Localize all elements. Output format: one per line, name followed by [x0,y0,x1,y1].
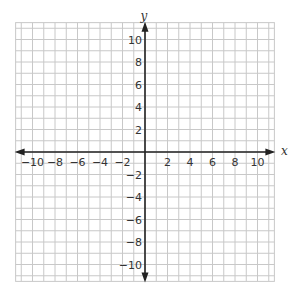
y-tick-label: −2 [126,169,142,182]
y-tick-label: −4 [126,191,142,204]
x-tick-labels: −10−8−6−4−2246810 [21,156,265,169]
x-tick-label: −6 [69,156,85,169]
x-axis-label: x [281,144,288,158]
x-tick-label: 10 [251,156,265,169]
x-tick-label: 2 [164,156,171,169]
y-tick-label: −8 [126,236,142,249]
y-tick-label: −6 [126,214,142,227]
y-tick-label: 4 [135,101,142,114]
x-tick-label: −2 [114,156,130,169]
y-axis-label: y [140,9,148,23]
coordinate-plane: −10−8−6−4−2246810 108642−2−4−6−8−10 x y [0,0,296,292]
x-tick-label: −4 [92,156,108,169]
x-tick-label: −8 [47,156,63,169]
y-tick-label: −10 [119,259,142,272]
x-tick-label: −10 [21,156,44,169]
y-tick-label: 10 [128,34,142,47]
axes [15,22,276,283]
y-tick-label: 8 [135,56,142,69]
y-tick-label: 2 [135,124,142,137]
x-tick-label: 8 [232,156,239,169]
x-tick-label: 6 [209,156,216,169]
y-tick-label: 6 [135,79,142,92]
x-tick-label: 4 [187,156,194,169]
